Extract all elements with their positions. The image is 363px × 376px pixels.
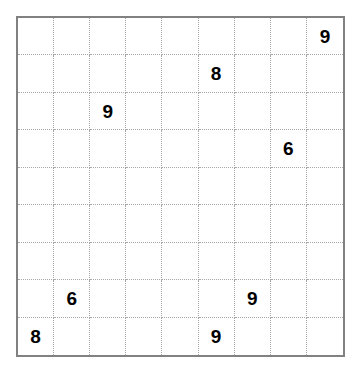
sudoku-cell-r8c2[interactable]: 6 <box>54 280 90 317</box>
sudoku-cell-r7c5[interactable] <box>162 243 198 280</box>
sudoku-cell-r3c9[interactable] <box>307 93 343 130</box>
sudoku-cell-r8c5[interactable] <box>162 280 198 317</box>
sudoku-cell-r7c9[interactable] <box>307 243 343 280</box>
sudoku-grid: 98966989 <box>16 16 345 357</box>
sudoku-cell-r7c8[interactable] <box>271 243 307 280</box>
sudoku-cell-r9c2[interactable] <box>54 318 90 355</box>
sudoku-cell-r9c7[interactable] <box>235 318 271 355</box>
sudoku-cell-r3c2[interactable] <box>54 93 90 130</box>
sudoku-cell-r6c3[interactable] <box>90 205 126 242</box>
sudoku-cell-r5c4[interactable] <box>126 168 162 205</box>
sudoku-cell-r3c1[interactable] <box>18 93 54 130</box>
sudoku-cell-r4c7[interactable] <box>235 130 271 167</box>
sudoku-cell-r8c4[interactable] <box>126 280 162 317</box>
sudoku-cell-value: 9 <box>247 289 258 308</box>
sudoku-cell-value: 9 <box>211 327 222 346</box>
sudoku-cell-r3c6[interactable] <box>199 93 235 130</box>
sudoku-cell-r4c5[interactable] <box>162 130 198 167</box>
sudoku-cell-r9c3[interactable] <box>90 318 126 355</box>
sudoku-cell-r3c8[interactable] <box>271 93 307 130</box>
sudoku-cell-r5c5[interactable] <box>162 168 198 205</box>
sudoku-cell-r2c8[interactable] <box>271 55 307 92</box>
sudoku-cell-r2c7[interactable] <box>235 55 271 92</box>
sudoku-cell-value: 6 <box>283 139 294 158</box>
sudoku-cell-r7c1[interactable] <box>18 243 54 280</box>
sudoku-cell-r6c4[interactable] <box>126 205 162 242</box>
sudoku-cell-r4c8[interactable]: 6 <box>271 130 307 167</box>
sudoku-cell-r7c4[interactable] <box>126 243 162 280</box>
sudoku-cell-value: 9 <box>320 27 331 46</box>
sudoku-cell-r4c1[interactable] <box>18 130 54 167</box>
sudoku-cell-r9c8[interactable] <box>271 318 307 355</box>
sudoku-cell-r1c9[interactable]: 9 <box>307 18 343 55</box>
sudoku-cell-r9c5[interactable] <box>162 318 198 355</box>
sudoku-cell-r4c6[interactable] <box>199 130 235 167</box>
sudoku-cell-r1c7[interactable] <box>235 18 271 55</box>
sudoku-cell-value: 6 <box>66 289 77 308</box>
sudoku-cell-r3c4[interactable] <box>126 93 162 130</box>
sudoku-cell-r6c5[interactable] <box>162 205 198 242</box>
sudoku-cell-r4c9[interactable] <box>307 130 343 167</box>
sudoku-cell-r5c3[interactable] <box>90 168 126 205</box>
sudoku-grid-cells: 98966989 <box>18 18 343 355</box>
sudoku-cell-r1c5[interactable] <box>162 18 198 55</box>
sudoku-cell-r7c2[interactable] <box>54 243 90 280</box>
sudoku-cell-r5c8[interactable] <box>271 168 307 205</box>
sudoku-cell-r2c2[interactable] <box>54 55 90 92</box>
sudoku-cell-r4c2[interactable] <box>54 130 90 167</box>
sudoku-cell-r2c9[interactable] <box>307 55 343 92</box>
sudoku-cell-r5c1[interactable] <box>18 168 54 205</box>
sudoku-cell-r8c6[interactable] <box>199 280 235 317</box>
sudoku-cell-value: 9 <box>102 102 113 121</box>
sudoku-cell-r9c9[interactable] <box>307 318 343 355</box>
sudoku-cell-r5c7[interactable] <box>235 168 271 205</box>
sudoku-cell-r2c5[interactable] <box>162 55 198 92</box>
sudoku-cell-r6c6[interactable] <box>199 205 235 242</box>
sudoku-cell-r4c3[interactable] <box>90 130 126 167</box>
sudoku-cell-r1c2[interactable] <box>54 18 90 55</box>
sudoku-cell-r3c3[interactable]: 9 <box>90 93 126 130</box>
sudoku-cell-r9c6[interactable]: 9 <box>199 318 235 355</box>
sudoku-cell-r6c9[interactable] <box>307 205 343 242</box>
sudoku-cell-value: 8 <box>211 64 222 83</box>
sudoku-cell-r5c9[interactable] <box>307 168 343 205</box>
sudoku-cell-r7c6[interactable] <box>199 243 235 280</box>
sudoku-cell-r2c3[interactable] <box>90 55 126 92</box>
sudoku-cell-r4c4[interactable] <box>126 130 162 167</box>
sudoku-cell-r5c2[interactable] <box>54 168 90 205</box>
sudoku-cell-r6c1[interactable] <box>18 205 54 242</box>
sudoku-cell-r7c7[interactable] <box>235 243 271 280</box>
sudoku-cell-r1c6[interactable] <box>199 18 235 55</box>
sudoku-cell-r3c5[interactable] <box>162 93 198 130</box>
sudoku-cell-r9c1[interactable]: 8 <box>18 318 54 355</box>
sudoku-cell-r1c1[interactable] <box>18 18 54 55</box>
sudoku-cell-r8c3[interactable] <box>90 280 126 317</box>
sudoku-cell-r6c7[interactable] <box>235 205 271 242</box>
sudoku-cell-r6c2[interactable] <box>54 205 90 242</box>
sudoku-cell-r2c6[interactable]: 8 <box>199 55 235 92</box>
sudoku-cell-r2c4[interactable] <box>126 55 162 92</box>
sudoku-cell-r1c3[interactable] <box>90 18 126 55</box>
sudoku-cell-r2c1[interactable] <box>18 55 54 92</box>
sudoku-cell-r7c3[interactable] <box>90 243 126 280</box>
sudoku-cell-r8c8[interactable] <box>271 280 307 317</box>
sudoku-cell-r8c9[interactable] <box>307 280 343 317</box>
sudoku-cell-r3c7[interactable] <box>235 93 271 130</box>
sudoku-cell-value: 8 <box>30 327 41 346</box>
sudoku-cell-r8c7[interactable]: 9 <box>235 280 271 317</box>
puzzle-root: 98966989 <box>0 0 363 376</box>
sudoku-cell-r8c1[interactable] <box>18 280 54 317</box>
sudoku-cell-r1c8[interactable] <box>271 18 307 55</box>
sudoku-cell-r6c8[interactable] <box>271 205 307 242</box>
sudoku-cell-r9c4[interactable] <box>126 318 162 355</box>
sudoku-cell-r1c4[interactable] <box>126 18 162 55</box>
sudoku-cell-r5c6[interactable] <box>199 168 235 205</box>
